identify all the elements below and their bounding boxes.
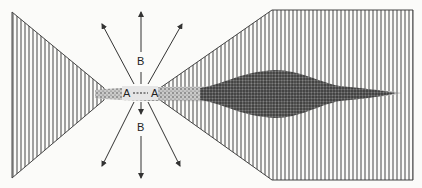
arrow-lower-left [102, 102, 134, 166]
arrow-lower-right [148, 102, 180, 166]
arrow-upper-left [102, 24, 134, 84]
label-b-bottom: B [137, 121, 144, 133]
arrow-upper-right [148, 24, 182, 84]
left-hatched-cone [12, 12, 104, 178]
diagram-canvas: A A B B [0, 0, 422, 188]
label-a-right: A [151, 87, 159, 99]
a-region-box: A A [122, 86, 159, 100]
label-a-left: A [123, 87, 131, 99]
label-b-top: B [137, 55, 144, 67]
